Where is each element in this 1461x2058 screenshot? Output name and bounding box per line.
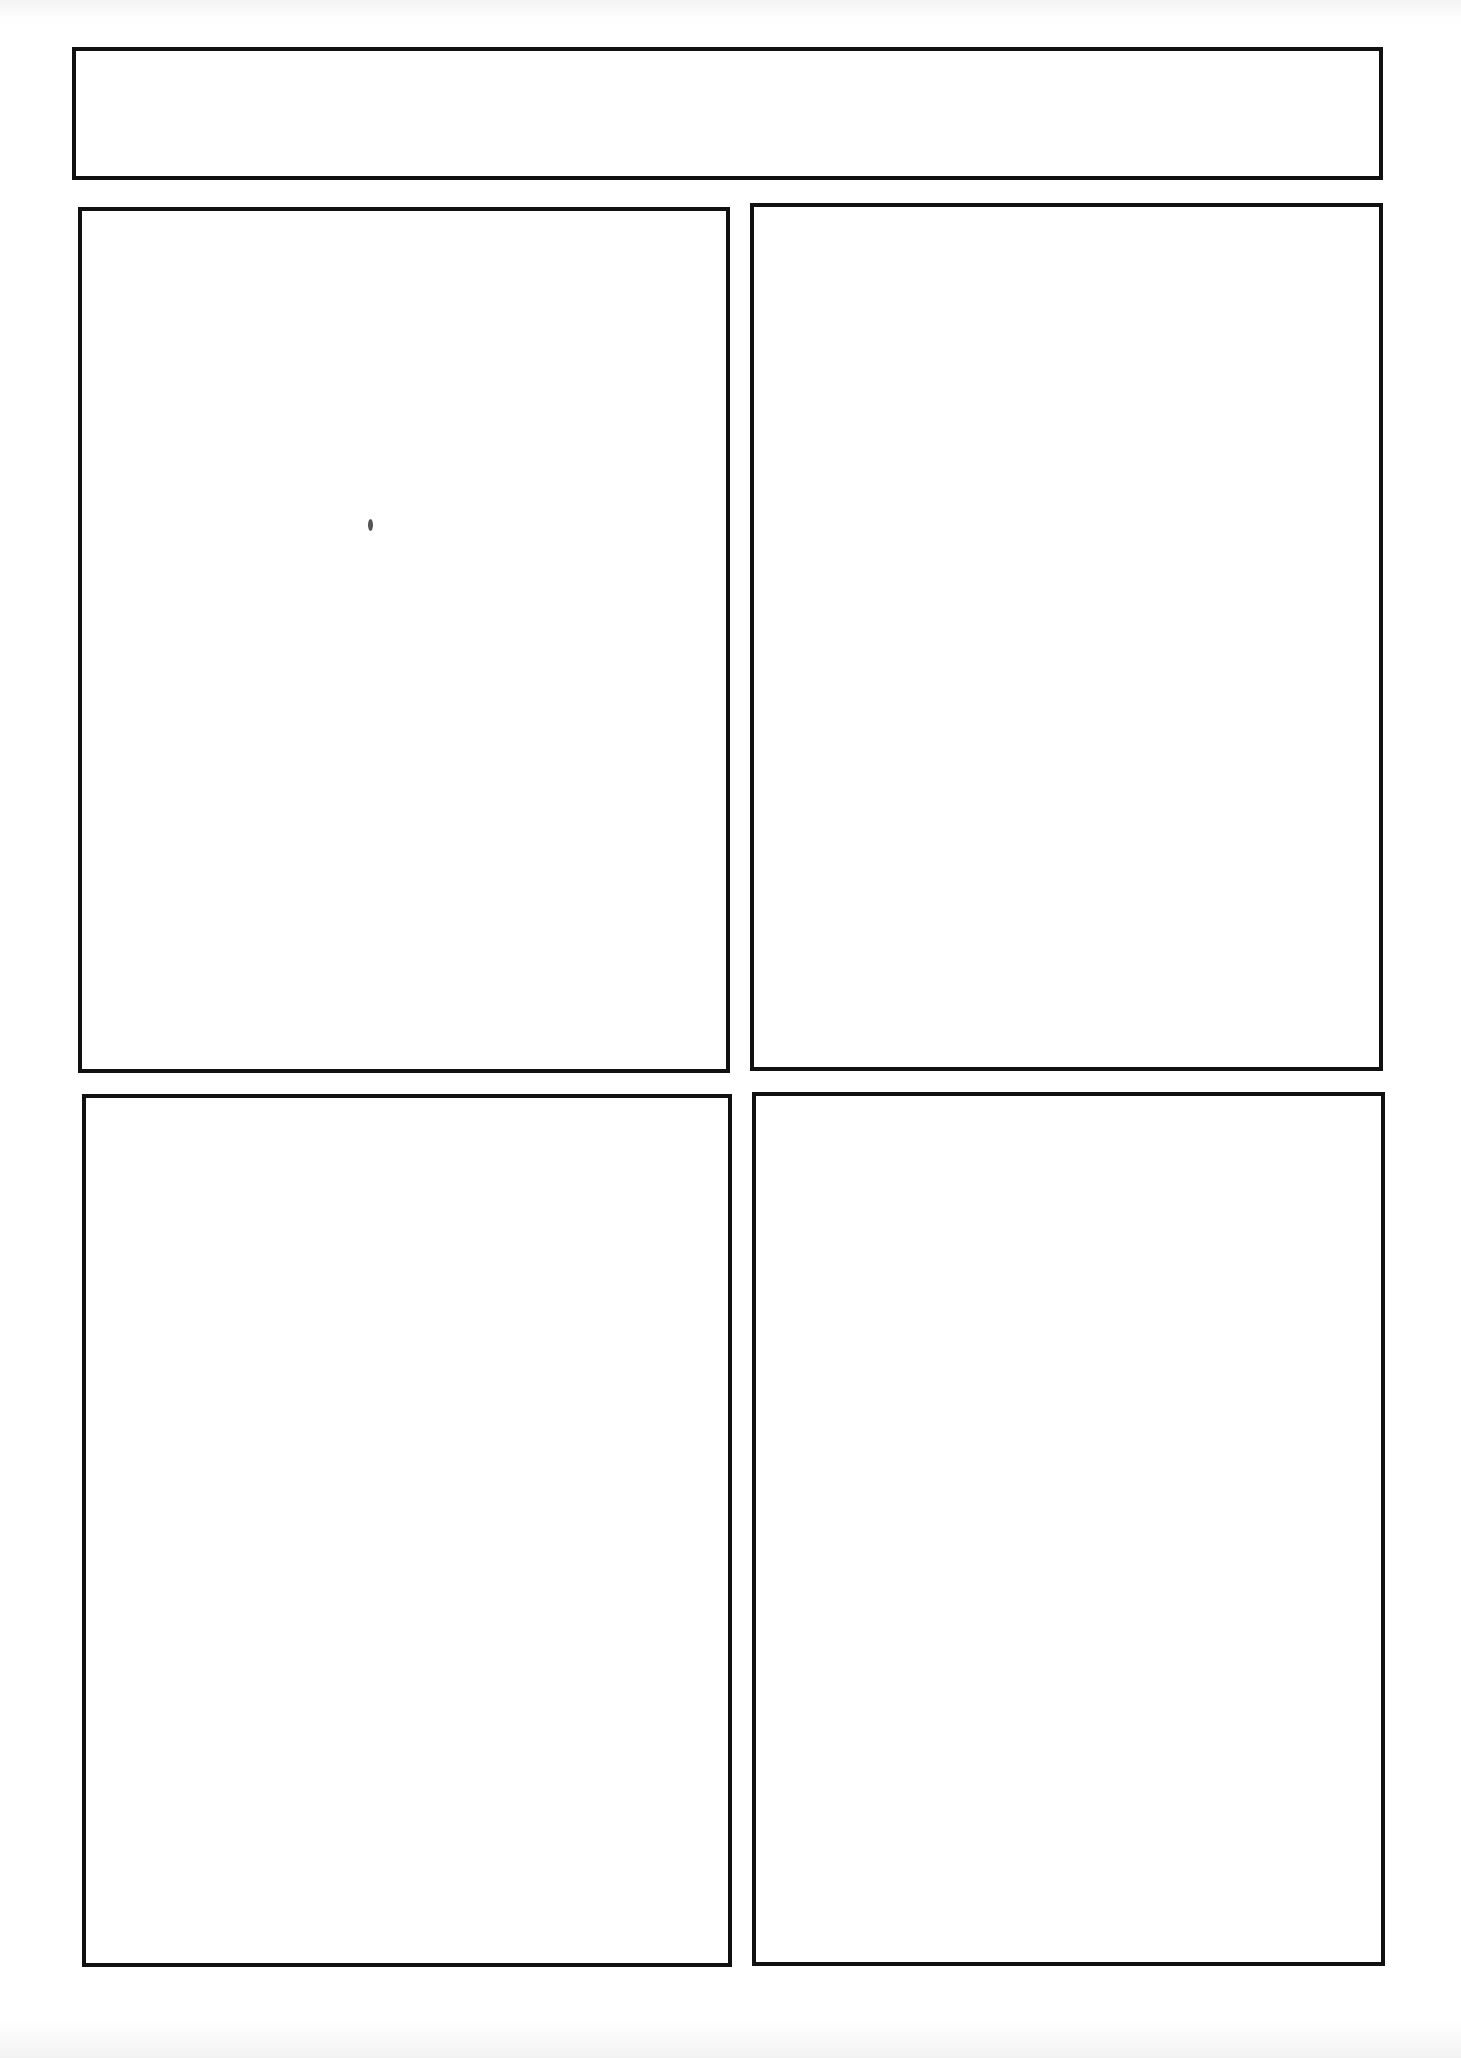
ink-speck	[368, 519, 373, 531]
panel-bottom-right	[752, 1092, 1385, 1966]
page-sheet	[0, 0, 1461, 2058]
title-box	[72, 47, 1383, 180]
panel-bottom-left	[82, 1094, 732, 1967]
panel-top-right	[750, 203, 1383, 1071]
panel-top-left	[78, 207, 730, 1073]
